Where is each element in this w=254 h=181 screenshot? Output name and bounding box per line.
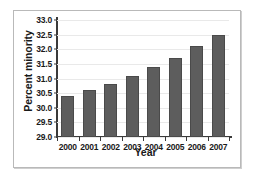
bar <box>147 67 160 137</box>
x-tick-mark <box>100 137 101 141</box>
y-tick-label: 29.5 <box>36 117 52 127</box>
gridline <box>57 35 229 36</box>
y-tick-mark <box>54 78 57 79</box>
y-tick-label: 29.0 <box>36 132 52 142</box>
y-tick-label: 32.5 <box>36 30 52 40</box>
x-tick-mark <box>165 137 166 141</box>
y-tick-label: 30.0 <box>36 103 52 113</box>
gridline <box>57 79 229 80</box>
bar <box>190 46 203 137</box>
y-tick-label: 33.0 <box>36 15 52 25</box>
gridline <box>57 64 229 65</box>
y-tick-label: 32.0 <box>36 44 52 54</box>
y-tick-label: 31.5 <box>36 59 52 69</box>
plot-area: 29.029.530.030.531.031.532.032.533.0 200… <box>57 20 229 137</box>
bar <box>61 96 74 137</box>
y-tick-mark <box>54 122 57 123</box>
y-tick-label: 31.0 <box>36 74 52 84</box>
gridline <box>57 49 229 50</box>
y-tick-mark <box>54 34 57 35</box>
y-tick-mark <box>54 93 57 94</box>
y-tick-mark <box>54 107 57 108</box>
bar <box>212 35 225 137</box>
y-tick-label: 30.5 <box>36 88 52 98</box>
x-tick-mark <box>57 137 58 141</box>
y-tick-mark <box>54 20 57 21</box>
x-axis-title: Year <box>58 146 233 158</box>
gridline <box>57 20 229 21</box>
chart-figure-frame: Percent minority 29.029.530.030.531.031.… <box>13 10 241 168</box>
y-axis-title: Percent minority <box>22 23 34 119</box>
chart-plot-wrapper: Percent minority 29.029.530.030.531.031.… <box>14 11 240 167</box>
x-tick-mark <box>186 137 187 141</box>
bar <box>104 84 117 137</box>
x-tick-mark <box>79 137 80 141</box>
bar <box>83 90 96 137</box>
y-tick-mark <box>54 49 57 50</box>
y-tick-mark <box>54 63 57 64</box>
x-tick-mark <box>143 137 144 141</box>
x-tick-mark <box>229 137 230 141</box>
bar <box>126 76 139 137</box>
x-tick-mark <box>122 137 123 141</box>
x-tick-mark <box>208 137 209 141</box>
bar <box>169 58 182 137</box>
